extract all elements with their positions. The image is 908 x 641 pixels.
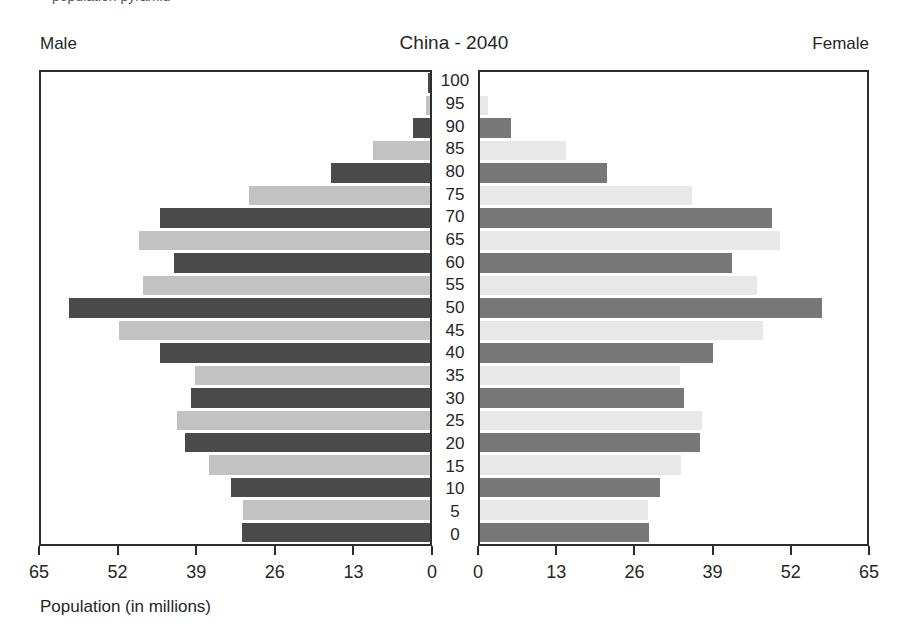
female-tick-label-13: 13	[546, 562, 566, 583]
female-bar-age-35	[480, 366, 680, 386]
male-bar-age-75	[249, 186, 430, 206]
age-label-60: 60	[432, 251, 478, 274]
female-bar-age-85	[480, 141, 566, 161]
female-row-age-60	[480, 252, 867, 274]
age-label-35: 35	[432, 365, 478, 388]
female-row-age-90	[480, 117, 867, 139]
female-row-age-5	[480, 499, 867, 521]
cropped-caption-text: population pyramid	[52, 0, 352, 4]
female-row-age-40	[480, 342, 867, 364]
male-row-age-45	[41, 319, 430, 341]
male-bar-age-95	[426, 96, 430, 116]
age-label-65: 65	[432, 229, 478, 252]
female-tick-0	[477, 546, 479, 555]
male-bar-age-85	[373, 141, 430, 161]
male-x-axis-ticks: 65523926130	[39, 546, 432, 590]
female-row-age-45	[480, 319, 867, 341]
female-x-axis-ticks: 01326395265	[478, 546, 869, 590]
female-bar-age-95	[480, 96, 488, 116]
age-label-5: 5	[432, 501, 478, 524]
male-row-age-65	[41, 229, 430, 251]
female-bar-age-60	[480, 253, 732, 273]
female-tick-label-26: 26	[624, 562, 644, 583]
female-side-label: Female	[812, 34, 869, 54]
male-row-age-70	[41, 207, 430, 229]
male-bar-age-55	[143, 276, 430, 296]
male-bars-panel	[39, 70, 432, 546]
age-label-100: 100	[432, 70, 478, 93]
age-label-50: 50	[432, 297, 478, 320]
male-row-age-10	[41, 476, 430, 498]
female-tick-26	[633, 546, 635, 555]
age-label-80: 80	[432, 161, 478, 184]
male-bar-age-0	[242, 523, 430, 543]
male-bar-age-65	[139, 231, 430, 251]
male-bar-age-20	[185, 433, 430, 453]
male-row-age-95	[41, 94, 430, 116]
age-label-85: 85	[432, 138, 478, 161]
female-row-age-65	[480, 229, 867, 251]
male-tick-label-26: 26	[265, 562, 285, 583]
female-bar-age-70	[480, 208, 772, 228]
male-tick-65	[38, 546, 40, 555]
female-row-age-100	[480, 72, 867, 94]
male-row-age-25	[41, 409, 430, 431]
female-tick-label-52: 52	[781, 562, 801, 583]
male-bar-age-100	[428, 73, 430, 93]
male-row-age-0	[41, 521, 430, 543]
male-row-age-75	[41, 184, 430, 206]
male-tick-label-52: 52	[108, 562, 128, 583]
age-label-0: 0	[432, 523, 478, 546]
male-row-age-60	[41, 252, 430, 274]
male-row-age-100	[41, 72, 430, 94]
age-label-20: 20	[432, 433, 478, 456]
female-row-age-25	[480, 409, 867, 431]
male-row-age-30	[41, 387, 430, 409]
female-row-age-80	[480, 162, 867, 184]
age-label-90: 90	[432, 115, 478, 138]
female-bar-age-30	[480, 388, 684, 408]
female-row-age-35	[480, 364, 867, 386]
female-bar-age-90	[480, 118, 511, 138]
female-bar-age-10	[480, 478, 660, 498]
male-bar-age-45	[119, 321, 430, 341]
female-tick-39	[712, 546, 714, 555]
male-row-age-85	[41, 139, 430, 161]
female-row-age-30	[480, 387, 867, 409]
female-bar-age-75	[480, 186, 692, 206]
male-bar-age-70	[160, 208, 430, 228]
male-bar-age-5	[243, 500, 430, 520]
female-row-age-95	[480, 94, 867, 116]
male-row-age-20	[41, 432, 430, 454]
female-tick-label-39: 39	[703, 562, 723, 583]
age-label-10: 10	[432, 478, 478, 501]
male-row-age-5	[41, 499, 430, 521]
male-tick-26	[274, 546, 276, 555]
female-bar-age-40	[480, 343, 713, 363]
population-pyramid-figure: population pyramid Male China - 2040 Fem…	[0, 0, 908, 641]
female-bar-age-15	[480, 455, 681, 475]
female-tick-13	[555, 546, 557, 555]
female-bar-age-65	[480, 231, 780, 251]
x-axis-caption: Population (in millions)	[40, 597, 211, 617]
male-bar-age-40	[160, 343, 430, 363]
male-row-age-90	[41, 117, 430, 139]
male-bar-age-80	[331, 163, 430, 183]
female-bars-panel	[478, 70, 869, 546]
female-bar-age-50	[480, 298, 822, 318]
female-row-age-75	[480, 184, 867, 206]
female-row-age-55	[480, 274, 867, 296]
male-row-age-55	[41, 274, 430, 296]
male-tick-label-13: 13	[343, 562, 363, 583]
female-row-age-0	[480, 521, 867, 543]
female-tick-label-65: 65	[859, 562, 879, 583]
age-label-55: 55	[432, 274, 478, 297]
male-row-age-80	[41, 162, 430, 184]
male-tick-label-65: 65	[29, 562, 49, 583]
age-label-95: 95	[432, 93, 478, 116]
chart-title: China - 2040	[0, 32, 908, 54]
male-tick-13	[352, 546, 354, 555]
male-row-age-35	[41, 364, 430, 386]
male-bar-age-25	[177, 411, 430, 431]
male-bar-age-15	[209, 455, 430, 475]
